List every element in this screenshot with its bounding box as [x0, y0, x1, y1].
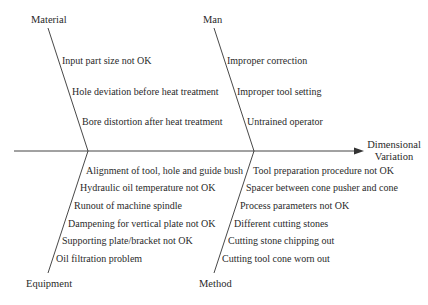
equipment-cause: Alignment of tool, hole and guide bush: [86, 165, 243, 177]
method-cause: Different cutting stones: [234, 218, 328, 230]
method-cause: Process parameters not OK: [240, 200, 349, 212]
equipment-cause: Oil filtration problem: [56, 253, 142, 265]
method-cause: Tool preparation procedure not OK: [253, 165, 394, 177]
man-cause: Untrained operator: [247, 116, 323, 128]
effect-line-1: Dimensional: [360, 139, 428, 151]
category-method-label: Method: [199, 278, 232, 290]
equipment-cause: Dampening for vertical plate not OK: [68, 218, 215, 230]
method-cause: Cutting stone chipping out: [228, 235, 334, 247]
material-cause: Bore distortion after heat treatment: [82, 116, 223, 128]
method-cause: Cutting tool cone worn out: [222, 253, 330, 265]
equipment-cause: Runout of machine spindle: [74, 200, 182, 212]
category-material-label: Material: [31, 14, 67, 26]
category-man-label: Man: [203, 14, 222, 26]
category-equipment-label: Equipment: [26, 278, 72, 290]
material-cause: Input part size not OK: [62, 55, 151, 67]
man-cause: Improper correction: [227, 55, 307, 67]
effect-line-2: Variation: [360, 151, 428, 163]
effect-label: Dimensional Variation: [360, 139, 428, 163]
method-cause: Spacer between cone pusher and cone: [246, 182, 398, 194]
man-cause: Improper tool setting: [237, 86, 321, 98]
equipment-cause: Hydraulic oil temperature not OK: [80, 182, 216, 194]
equipment-cause: Supporting plate/bracket not OK: [62, 235, 193, 247]
material-cause: Hole deviation before heat treatment: [72, 86, 219, 98]
